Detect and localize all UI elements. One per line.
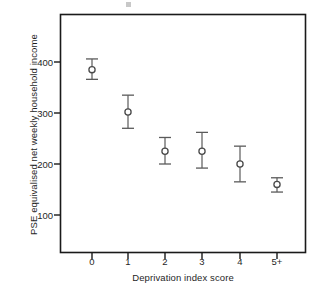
data-point-group — [86, 59, 98, 79]
data-point-marker — [162, 148, 168, 154]
data-point-marker — [125, 109, 131, 115]
data-point-group — [122, 95, 134, 128]
plot-frame — [61, 15, 306, 253]
data-point-marker — [237, 161, 243, 167]
data-point-group — [271, 178, 283, 192]
data-point-group — [159, 137, 171, 164]
data-point-group — [196, 132, 208, 168]
y-axis-ticks — [54, 62, 60, 215]
data-point-marker — [89, 67, 95, 73]
chart-figure: PSE equivalised net weekly household inc… — [0, 0, 317, 288]
data-point-marker — [274, 181, 280, 187]
data-series — [86, 59, 283, 192]
plot-svg — [0, 0, 317, 288]
data-point-marker — [199, 148, 205, 154]
data-point-group — [234, 146, 246, 182]
